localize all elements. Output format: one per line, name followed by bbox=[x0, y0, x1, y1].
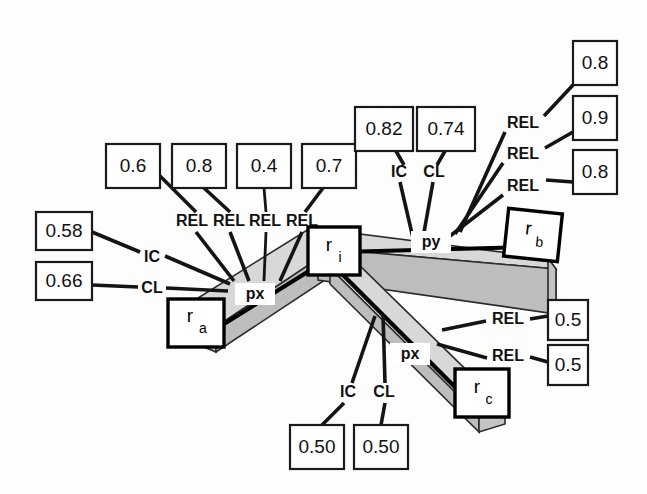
ic-label-center: IC bbox=[391, 163, 407, 180]
value-box-0.4-text: 0.4 bbox=[251, 155, 278, 176]
value-box-0.66-text: 0.66 bbox=[46, 270, 83, 291]
value-box-0.74[interactable]: 0.74 bbox=[417, 107, 475, 151]
rel-label-right-3: REL bbox=[507, 177, 539, 194]
value-box-0.9-text: 0.9 bbox=[582, 107, 608, 128]
relation-prism-diagram: px py px REL REL REL REL IC CL IC CL bbox=[0, 0, 647, 494]
value-box-0.74-text: 0.74 bbox=[428, 118, 465, 139]
value-box-0.9[interactable]: 0.9 bbox=[573, 96, 617, 140]
node-rb-rect[interactable] bbox=[504, 208, 563, 261]
conn-ic-prism-left bbox=[165, 256, 230, 284]
node-ri-sub: i bbox=[338, 249, 341, 265]
conn-box-0.8b-rel bbox=[546, 180, 573, 182]
conn-box-0.9-rel bbox=[545, 132, 573, 148]
conn-cl-box-0.50b bbox=[381, 403, 385, 425]
rel-label-left-3: REL bbox=[249, 212, 281, 229]
conn-rel-box-0.5b bbox=[530, 357, 548, 362]
value-box-0.8-r1[interactable]: 0.8 bbox=[573, 41, 617, 85]
node-ra[interactable]: r a bbox=[168, 299, 224, 347]
node-rc[interactable]: r c bbox=[455, 369, 509, 417]
node-ra-base: r bbox=[187, 305, 194, 326]
value-box-0.50-a[interactable]: 0.50 bbox=[290, 425, 344, 469]
conn-box-0.8-rel bbox=[204, 188, 230, 212]
value-box-0.6[interactable]: 0.6 bbox=[106, 144, 160, 188]
value-box-0.8-r3[interactable]: 0.8 bbox=[573, 150, 617, 194]
value-box-0.66[interactable]: 0.66 bbox=[36, 262, 92, 300]
cl-label-left: CL bbox=[141, 279, 163, 296]
port-py-right-text: py bbox=[422, 233, 441, 250]
node-rb[interactable]: r b bbox=[504, 208, 563, 261]
node-ra-rect[interactable] bbox=[168, 299, 224, 347]
conn-ic-box-0.50a bbox=[322, 403, 344, 425]
rel-label-lower-1: REL bbox=[492, 310, 524, 327]
port-px-left-text: px bbox=[246, 285, 265, 302]
ic-label-bottom: IC bbox=[340, 383, 356, 400]
conn-box-0.4-rel bbox=[264, 188, 266, 212]
value-box-0.8-top[interactable]: 0.8 bbox=[172, 144, 226, 188]
value-box-0.4[interactable]: 0.4 bbox=[237, 144, 291, 188]
value-box-0.5-b-text: 0.5 bbox=[555, 354, 581, 375]
ic-label-left: IC bbox=[144, 248, 160, 265]
node-ri[interactable]: r i bbox=[308, 227, 360, 275]
value-box-0.6-text: 0.6 bbox=[120, 155, 146, 176]
node-ri-base: r bbox=[326, 234, 333, 255]
conn-ic-prism-center bbox=[400, 182, 413, 238]
port-py-right: py bbox=[411, 231, 451, 253]
conn-prism-ic-bottom bbox=[352, 316, 375, 383]
node-ri-rect[interactable] bbox=[308, 227, 360, 275]
rel-label-left-1: REL bbox=[176, 212, 208, 229]
diagram-canvas: px py px REL REL REL REL IC CL IC CL bbox=[0, 0, 647, 494]
port-px-lower: px bbox=[390, 343, 430, 365]
cl-label-center: CL bbox=[423, 163, 445, 180]
conn-box-0.66-cl bbox=[92, 285, 138, 287]
value-box-0.58[interactable]: 0.58 bbox=[36, 212, 92, 250]
value-box-0.82-text: 0.82 bbox=[366, 118, 403, 139]
value-box-0.8-r3-text: 0.8 bbox=[582, 161, 608, 182]
value-box-0.7[interactable]: 0.7 bbox=[302, 144, 356, 188]
value-box-0.5-b[interactable]: 0.5 bbox=[548, 345, 588, 385]
conn-box-0.7-rel bbox=[305, 188, 323, 212]
node-ra-sub: a bbox=[199, 320, 207, 336]
value-box-0.50-b-text: 0.50 bbox=[363, 436, 400, 457]
port-px-lower-text: px bbox=[401, 345, 420, 362]
node-rc-rect[interactable] bbox=[455, 369, 509, 417]
rel-label-right-1: REL bbox=[507, 114, 539, 131]
value-box-0.8-top-text: 0.8 bbox=[186, 155, 212, 176]
conn-box-0.8a-rel bbox=[544, 85, 573, 116]
node-rc-base: r bbox=[474, 376, 481, 397]
value-box-0.58-text: 0.58 bbox=[46, 220, 83, 241]
value-box-0.50-b[interactable]: 0.50 bbox=[354, 425, 408, 469]
rel-label-lower-2: REL bbox=[492, 347, 524, 364]
conn-prism-cl-bottom bbox=[383, 314, 385, 383]
value-box-0.8-r1-text: 0.8 bbox=[582, 52, 608, 73]
port-px-left: px bbox=[235, 283, 275, 305]
value-box-0.7-text: 0.7 bbox=[316, 155, 342, 176]
value-box-0.50-a-text: 0.50 bbox=[299, 436, 336, 457]
rel-label-right-2: REL bbox=[507, 145, 539, 162]
conn-prism-rel-lower1 bbox=[442, 321, 486, 330]
conn-cl-prism-center bbox=[423, 182, 433, 238]
value-box-0.82[interactable]: 0.82 bbox=[355, 107, 413, 151]
value-box-0.5-a[interactable]: 0.5 bbox=[548, 300, 588, 340]
conn-rel-box-0.5a bbox=[530, 316, 548, 319]
conn-box-0.58-ic bbox=[92, 232, 140, 252]
rel-label-left-2: REL bbox=[213, 212, 245, 229]
cl-label-bottom: CL bbox=[373, 383, 395, 400]
value-box-0.5-a-text: 0.5 bbox=[555, 309, 581, 330]
node-rc-sub: c bbox=[486, 391, 493, 407]
conn-rel3-prism bbox=[264, 232, 266, 281]
